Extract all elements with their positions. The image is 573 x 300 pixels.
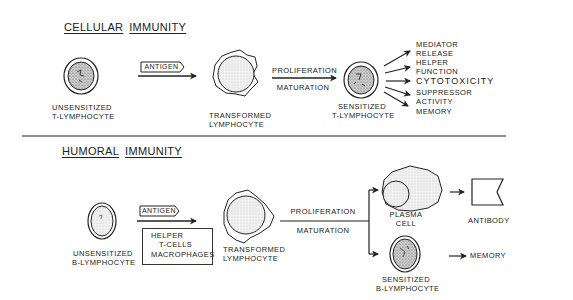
label-line: LYMPHOCYTE	[223, 255, 285, 264]
memory-humoral-label: MEMORY	[470, 252, 506, 261]
maturation-label: MATURATION	[272, 84, 334, 93]
helper-cells-box: HELPER T-CELLS MACROPHAGES	[142, 228, 213, 265]
branch-connector	[280, 190, 378, 254]
transformed-lymphocyte-humoral-label: TRANSFORMED LYMPHOCYTE	[223, 246, 285, 263]
plasma-cell-icon	[382, 166, 442, 211]
unsensitized-b-label: UNSENSITIZED B-LYMPHOCYTE	[72, 250, 134, 267]
outcome-memory: MEMORY	[416, 108, 452, 117]
unsensitized-t-lymphocyte-icon	[64, 58, 98, 94]
transformed-lymphocyte-icon	[213, 50, 258, 96]
unsensitized-t-label: UNSENSITIZED T-LYMPHOCYTE	[52, 104, 112, 121]
label-line: RELEASE	[416, 50, 458, 59]
label-line: T-LYMPHOCYTE	[52, 113, 112, 122]
label-line: HELPER	[151, 231, 204, 240]
label-line: B-LYMPHOCYTE	[376, 285, 436, 294]
plasma-cell-label: PLASMA CELL	[386, 211, 426, 228]
outcome-suppressor-activity: SUPPRESSOR ACTIVITY	[416, 89, 472, 106]
humoral-immunity-title: HUMORALIMMUNITY	[62, 145, 188, 157]
transformed-lymphocyte-humoral-icon	[224, 190, 274, 243]
label-line: T-LYMPHOCYTE	[332, 112, 392, 121]
sensitized-t-lymphocyte-icon	[344, 62, 378, 98]
proliferation-label: PROLIFERATION	[272, 67, 334, 76]
outcome-mediator-release: MEDIATOR RELEASE	[416, 41, 458, 58]
label-line: MACROPHAGES	[151, 249, 204, 261]
antigen-label-humoral: ANTIGEN	[142, 207, 176, 216]
transformed-lymphocyte-label: TRANSFORMED LYMPHOCYTE	[209, 112, 271, 129]
sensitized-b-label: SENSITIZED B-LYMPHOCYTE	[376, 276, 436, 293]
proliferation-humoral-label: PROLIFERATION	[288, 208, 358, 217]
title-word: CELLULAR	[64, 21, 123, 33]
title-word: HUMORAL	[62, 145, 119, 157]
unsensitized-b-lymphocyte-icon	[88, 203, 116, 239]
cellular-immunity-title: CELLULARIMMUNITY	[64, 21, 192, 33]
title-word: IMMUNITY	[129, 21, 186, 33]
title-word: IMMUNITY	[125, 145, 182, 157]
label-line: B-LYMPHOCYTE	[72, 259, 134, 268]
sensitized-b-lymphocyte-icon	[390, 236, 420, 272]
label-line: T-CELLS	[151, 240, 204, 249]
antibody-label: ANTIBODY	[468, 217, 508, 226]
label-line: LYMPHOCYTE	[209, 121, 271, 130]
label-line: CELL	[386, 220, 426, 229]
maturation-humoral-label: MATURATION	[288, 227, 358, 236]
label-line: ACTIVITY	[416, 98, 472, 107]
outcome-helper-function: HELPER FUNCTION	[416, 59, 458, 76]
label-line: FUNCTION	[416, 68, 458, 77]
sensitized-t-label: SENSITIZED T-LYMPHOCYTE	[332, 103, 392, 120]
outcome-cytotoxicity: CYTOTOXICITY	[416, 77, 494, 86]
outcome-arrows	[384, 51, 410, 106]
antibody-icon	[472, 179, 503, 205]
antigen-label: ANTIGEN	[143, 63, 180, 72]
